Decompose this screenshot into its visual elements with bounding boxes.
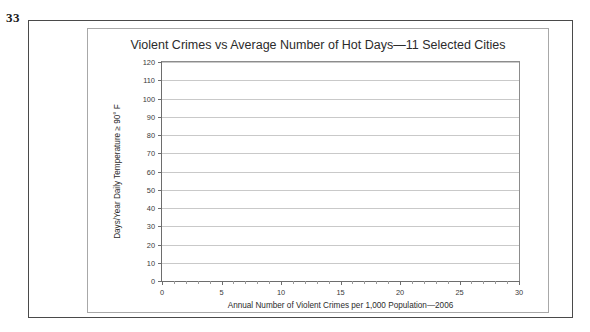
x-tick-mark-minor — [352, 281, 353, 284]
x-tick-label: 5 — [219, 288, 223, 297]
gridline — [162, 263, 519, 264]
x-tick-label: 0 — [160, 288, 164, 297]
x-tick-mark-minor — [186, 281, 187, 284]
y-tick-mark — [158, 172, 162, 173]
x-tick-mark-minor — [388, 281, 389, 284]
x-axis-title: Annual Number of Violent Crimes per 1,00… — [161, 301, 520, 310]
x-tick-mark — [519, 281, 520, 285]
x-tick-mark-minor — [364, 281, 365, 284]
y-tick-label: 30 — [147, 222, 155, 231]
chart-container: Violent Crimes vs Average Number of Hot … — [87, 28, 549, 313]
x-tick-mark-minor — [436, 281, 437, 284]
gridline — [162, 172, 519, 173]
x-tick-mark-minor — [293, 281, 294, 284]
y-tick-label: 40 — [147, 204, 155, 213]
y-tick-label: 0 — [151, 277, 155, 286]
gridline — [162, 153, 519, 154]
x-tick-mark-minor — [257, 281, 258, 284]
x-tick-mark-minor — [448, 281, 449, 284]
y-tick-mark — [158, 208, 162, 209]
x-tick-mark-minor — [198, 281, 199, 284]
gridline — [162, 208, 519, 209]
x-tick-mark-minor — [317, 281, 318, 284]
x-tick-mark-minor — [412, 281, 413, 284]
x-tick-mark — [222, 281, 223, 285]
gridline — [162, 135, 519, 136]
y-tick-mark — [158, 117, 162, 118]
gridline — [162, 226, 519, 227]
x-tick-mark-minor — [483, 281, 484, 284]
y-tick-mark — [158, 245, 162, 246]
y-tick-label: 110 — [143, 76, 155, 85]
y-tick-label: 60 — [147, 167, 155, 176]
x-tick-label: 30 — [515, 288, 523, 297]
gridline — [162, 80, 519, 81]
y-axis-title: Days/Year Daily Temperature ≥ 90° F — [110, 61, 124, 282]
y-tick-mark — [158, 99, 162, 100]
plot-area: 0102030405060708090100110120 05101520253… — [161, 61, 520, 282]
y-tick-mark — [158, 153, 162, 154]
x-tick-mark-minor — [269, 281, 270, 284]
y-axis-title-text: Days/Year Daily Temperature ≥ 90° F — [113, 104, 122, 239]
x-tick-mark-minor — [245, 281, 246, 284]
gridline — [162, 62, 519, 63]
x-tick-mark — [341, 281, 342, 285]
figure-frame: Violent Crimes vs Average Number of Hot … — [28, 20, 573, 318]
x-tick-mark — [400, 281, 401, 285]
y-tick-label: 120 — [143, 58, 155, 67]
gridline — [162, 117, 519, 118]
x-tick-label: 15 — [336, 288, 344, 297]
y-tick-label: 50 — [147, 185, 155, 194]
gridline — [162, 190, 519, 191]
x-tick-mark-minor — [507, 281, 508, 284]
x-tick-mark-minor — [376, 281, 377, 284]
y-tick-mark — [158, 226, 162, 227]
y-tick-label: 100 — [143, 94, 155, 103]
x-tick-mark-minor — [174, 281, 175, 284]
x-tick-mark — [281, 281, 282, 285]
x-tick-label: 25 — [455, 288, 463, 297]
y-tick-label: 80 — [147, 131, 155, 140]
y-tick-label: 70 — [147, 149, 155, 158]
y-tick-mark — [158, 263, 162, 264]
x-tick-mark-minor — [210, 281, 211, 284]
x-tick-label: 10 — [277, 288, 285, 297]
y-tick-mark — [158, 190, 162, 191]
x-tick-mark-minor — [233, 281, 234, 284]
y-tick-label: 10 — [147, 258, 155, 267]
gridline — [162, 99, 519, 100]
y-tick-label: 90 — [147, 112, 155, 121]
x-tick-mark-minor — [424, 281, 425, 284]
x-tick-mark — [162, 281, 163, 285]
y-tick-mark — [158, 135, 162, 136]
y-tick-mark — [158, 62, 162, 63]
x-tick-mark-minor — [329, 281, 330, 284]
x-tick-mark-minor — [471, 281, 472, 284]
x-tick-mark-minor — [495, 281, 496, 284]
exercise-number: 33 — [6, 10, 20, 26]
chart-title: Violent Crimes vs Average Number of Hot … — [88, 38, 548, 52]
gridline — [162, 245, 519, 246]
y-tick-mark — [158, 80, 162, 81]
x-tick-label: 20 — [396, 288, 404, 297]
y-tick-label: 20 — [147, 240, 155, 249]
x-tick-mark-minor — [305, 281, 306, 284]
x-tick-mark — [460, 281, 461, 285]
